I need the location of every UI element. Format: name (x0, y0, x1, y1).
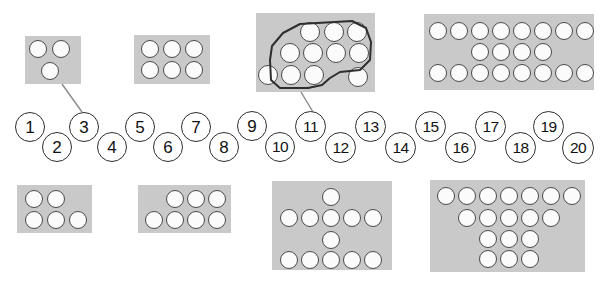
lasso-outline-around-eleven-dots (270, 21, 371, 88)
connector-layer (62, 84, 313, 112)
counting-worksheet: 1234567891011121314151617181920 (0, 0, 606, 286)
lasso-layer (270, 21, 371, 88)
connector-card-3-dots-to-number-3 (62, 84, 82, 112)
lasso-and-connector-overlay (0, 0, 606, 286)
connector-card-11-dots-to-number-11 (301, 92, 313, 112)
